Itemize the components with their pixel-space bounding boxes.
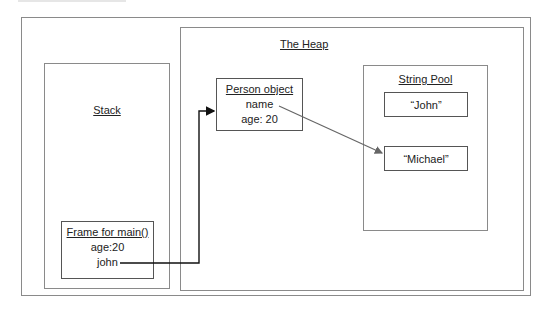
string-john-box: “John” [384,92,468,117]
person-object-title: Person object [217,82,302,96]
frame-field-age: age:20 [62,240,153,254]
string-john: “John” [385,98,467,112]
heap-title: The Heap [280,37,328,51]
person-field-name: name [217,97,302,111]
top-edge-strip [18,0,126,2]
string-michael: “Michael” [385,152,467,166]
main-frame-box: Frame for main() age:20 john [61,221,154,279]
person-field-age: age: 20 [217,112,302,126]
frame-field-john: john [97,255,118,269]
main-frame-title: Frame for main() [62,225,153,239]
string-michael-box: “Michael” [384,146,468,171]
person-object-box: Person object name age: 20 [216,78,303,131]
string-pool-title: String Pool [364,72,487,86]
stack-title: Stack [45,103,169,117]
